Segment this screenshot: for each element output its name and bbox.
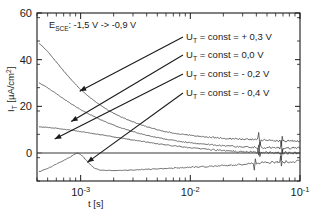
legend-text-2: = const = - 0,2 V [197,68,270,79]
legend-text-0: = const = + 0,3 V [197,31,272,42]
y-tick-label-60: 60 [20,7,32,19]
x-tick-label--2: 10-2 [181,185,200,199]
transient-current-chart: 0204060 10-310-210-1 IT [µA/cm2] t [s] E… [0,0,319,220]
legend-entry-3: UT = const = - 0,4 V [186,87,270,100]
svg-text:IT [µA/cm2]: IT [µA/cm2] [5,67,18,112]
x-axis-label-text: t [s] [88,198,103,209]
x-tick-mantissa: 10 [291,186,303,198]
x-tick-exponent: -3 [83,185,90,194]
y-axis-label: IT [µA/cm2] [5,67,18,112]
y-tick-labels: 0204060 [20,7,32,159]
leader-arrowhead-0 [80,86,87,91]
potential-step-annotation: ESCE: -1,5 V -> -0,9 V [49,20,137,32]
y-axis-label-unit: [µA/cm [5,73,16,105]
svg-text:ESCE: -1,5 V -> -0,9 V: ESCE: -1,5 V -> -0,9 V [49,20,137,32]
figure-container: 0204060 10-310-210-1 IT [µA/cm2] t [s] E… [0,0,319,220]
y-axis-label-close: ] [5,67,16,70]
annotation-rest: : -1,5 V -> -0,9 V [69,20,138,30]
x-tick-label--3: 10-3 [71,185,90,199]
y-tick-label-0: 0 [26,147,32,159]
x-tick-mantissa: 10 [181,186,193,198]
leader-arrowhead-2 [55,134,62,139]
y-tick-label-40: 40 [20,54,32,66]
x-axis-label: t [s] [88,198,103,209]
legend-text-3: = const = - 0,4 V [197,87,270,98]
curve-series-3 [39,153,300,172]
x-tick-exponent: -1 [303,185,310,194]
legend: UT = const = + 0,3 VUT = const = 0,0 VUT… [186,31,272,100]
legend-text-1: = const = 0,0 V [197,49,264,60]
annotation-subscript: SCE [55,25,69,32]
legend-entry-0: UT = const = + 0,3 V [186,31,272,44]
leader-arrowhead-1 [71,116,78,122]
x-tick-labels: 10-310-210-1 [71,185,309,199]
legend-entry-2: UT = const = - 0,2 V [186,68,270,81]
legend-entry-1: UT = const = 0,0 V [186,49,264,62]
legend-leader-arrows [55,37,183,162]
leader-arrowhead-3 [87,156,94,162]
y-tick-label-20: 20 [20,100,32,112]
x-tick-label--1: 10-1 [291,185,310,199]
leader-line-1 [71,55,183,122]
x-tick-exponent: -2 [193,185,200,194]
x-tick-mantissa: 10 [71,186,83,198]
